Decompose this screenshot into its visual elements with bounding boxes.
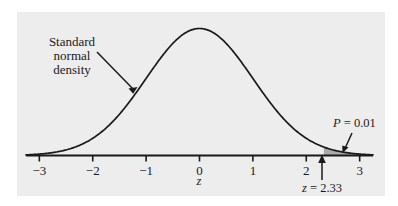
x-tick-label-4: 1 [250,163,257,178]
x-tick-label-2: −1 [139,163,153,178]
x-tick-label-5: 2 [303,163,310,178]
x-tick-label-1: −2 [86,163,100,178]
x-tick-label-6: 3 [356,163,363,178]
curve-label-leader-line [97,52,134,90]
normal-distribution-figure: −3−2−10123 z Standard normal density P =… [0,0,398,206]
x-axis-title: z [196,174,202,188]
curve-label-line-1: Standard [49,34,96,49]
tail-probability-label: P = 0.01 [332,116,376,130]
curve-label-line-2: normal [54,48,91,63]
tail-label-leader [342,133,352,153]
curve-label-leader [97,52,138,94]
tail-probability-value: = 0.01 [341,116,376,130]
chart-canvas: −3−2−10123 z Standard normal density P =… [0,0,398,206]
curve-label-line-3: density [53,62,91,77]
critical-value-leader [318,155,326,181]
critical-value-label: z = 2.33 [301,181,342,195]
tail-probability-variable: P [332,116,341,130]
critical-value-number: = 2.33 [307,181,342,195]
x-tick-label-0: −3 [32,163,46,178]
